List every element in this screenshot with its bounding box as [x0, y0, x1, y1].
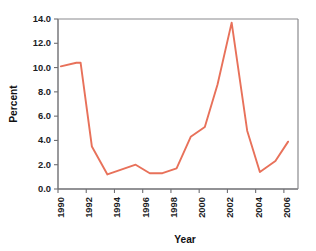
y-axis-ticks: 0.02.04.06.08.010.012.014.0 [33, 13, 58, 194]
y-tick-label: 8.0 [38, 86, 51, 97]
chart-figure: 0.02.04.06.08.010.012.014.0 199019921994… [0, 0, 316, 251]
y-tick-label: 12.0 [33, 37, 51, 48]
x-tick-label: 2002 [224, 197, 235, 218]
y-axis-title: Percent [8, 85, 19, 123]
y-tick-label: 2.0 [38, 159, 51, 170]
y-tick-label: 14.0 [33, 13, 51, 24]
y-tick-label: 10.0 [33, 62, 51, 73]
y-tick-label: 0.0 [38, 183, 51, 194]
x-tick-label: 1996 [140, 197, 151, 218]
x-tick-label: 2000 [196, 197, 207, 218]
x-axis-ticks: 199019921994199619982000200220042006 [55, 189, 292, 218]
x-tick-label: 1990 [55, 197, 66, 218]
x-tick-label: 2006 [281, 197, 292, 218]
line-chart: 0.02.04.06.08.010.012.014.0 199019921994… [0, 0, 316, 251]
x-tick-label: 1992 [83, 197, 94, 218]
y-tick-label: 4.0 [38, 134, 51, 145]
x-tick-label: 1994 [111, 196, 122, 218]
y-tick-label: 6.0 [38, 110, 51, 121]
x-axis-title: Year [174, 234, 196, 245]
x-tick-label: 2004 [253, 196, 264, 218]
x-tick-label: 1998 [168, 197, 179, 218]
